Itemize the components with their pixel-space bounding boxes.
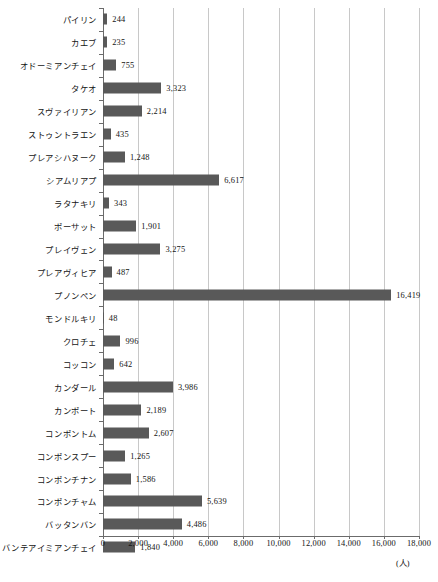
bar-value-label: 1,586 — [131, 474, 156, 483]
bar-row: オドーミアンチェイ755 — [0, 54, 438, 77]
bar-value-label: 3,986 — [173, 382, 198, 391]
bar-track: 1,265 — [103, 444, 419, 467]
bar — [103, 427, 149, 438]
category-label: コンポンチナン — [37, 473, 97, 485]
bar — [103, 60, 116, 71]
category-label: コッコン — [63, 358, 97, 370]
bar — [103, 473, 131, 484]
bar-value-label: 235 — [107, 38, 125, 47]
bar-track: 3,986 — [103, 375, 419, 398]
bar — [103, 519, 182, 530]
bar — [103, 152, 125, 163]
bar-row: ポーサット1,901 — [0, 215, 438, 238]
bar-row: プレイヴェン3,275 — [0, 238, 438, 261]
bar-track: 755 — [103, 54, 419, 77]
category-label: プレイヴェン — [45, 243, 97, 255]
bar-row: ラタナキリ343 — [0, 192, 438, 215]
unit-label: (人) — [396, 556, 410, 568]
category-label: ラタナキリ — [54, 197, 97, 209]
bar-row: タケオ3,323 — [0, 77, 438, 100]
bar-row: プノンペン16,419 — [0, 283, 438, 306]
bar-row: カエブ235 — [0, 31, 438, 54]
bar-value-label: 16,419 — [391, 290, 420, 299]
bar-track: 1,248 — [103, 146, 419, 169]
bar — [103, 244, 160, 255]
bar-value-label: 3,275 — [160, 245, 185, 254]
category-label: プレアヴィヒア — [37, 266, 97, 278]
category-label: ポーサット — [54, 220, 97, 232]
bar-row: ストゥントラエン435 — [0, 123, 438, 146]
x-axis-tick-label: 0 — [101, 539, 105, 548]
bar-track: 3,323 — [103, 77, 419, 100]
bar-value-label: 642 — [114, 359, 132, 368]
bar-value-label: 1,265 — [125, 451, 150, 460]
category-label: カエブ — [71, 36, 97, 48]
bar-value-label: 244 — [107, 15, 125, 24]
bar-value-label: 4,486 — [182, 520, 207, 529]
bar — [103, 381, 173, 392]
category-label: タケオ — [71, 82, 97, 94]
bar-row: プレアヴィヒア487 — [0, 260, 438, 283]
x-axis-tick-label: 18,000 — [407, 539, 431, 548]
bar-track: 343 — [103, 192, 419, 215]
bar — [103, 358, 114, 369]
bar — [103, 106, 142, 117]
bar-row: プレアシハヌーク1,248 — [0, 146, 438, 169]
bar — [103, 175, 219, 186]
category-label: クロチェ — [63, 335, 97, 347]
x-axis-tick-label: 6,000 — [198, 539, 218, 548]
category-label: コンポンチャム — [37, 495, 97, 507]
bar — [103, 496, 202, 507]
bar-row: パイリン244 — [0, 8, 438, 31]
category-label: カンダール — [54, 381, 97, 393]
bar — [103, 450, 125, 461]
bar — [103, 129, 111, 140]
category-label: カンポート — [54, 404, 97, 416]
category-label: ストゥントラエン — [28, 128, 97, 140]
bar-row: コンポンチナン1,586 — [0, 467, 438, 490]
bar-value-label: 3,323 — [161, 84, 186, 93]
bar — [103, 83, 161, 94]
bar-value-label: 2,214 — [142, 107, 167, 116]
bar-track: 2,189 — [103, 398, 419, 421]
bar-track: 2,214 — [103, 100, 419, 123]
x-axis-tick-label: 10,000 — [266, 539, 290, 548]
category-label: プノンペン — [54, 289, 97, 301]
bar-row: シアムリアプ6,617 — [0, 169, 438, 192]
bar-row: クロチェ996 — [0, 329, 438, 352]
bar-value-label: 2,607 — [149, 428, 174, 437]
bar-value-label: 996 — [120, 336, 138, 345]
bar-value-label: 1,248 — [125, 153, 150, 162]
bar — [103, 404, 141, 415]
category-label: プレアシハヌーク — [28, 151, 97, 163]
bar-track: 1,901 — [103, 215, 419, 238]
x-axis-tick-label: 2,000 — [128, 539, 148, 548]
bar-value-label: 755 — [116, 61, 134, 70]
bar-value-label: 435 — [111, 130, 129, 139]
bar — [103, 289, 391, 300]
category-label: バッタンバン — [45, 518, 97, 530]
x-axis-tick-label: 8,000 — [234, 539, 254, 548]
bar-track: 2,607 — [103, 421, 419, 444]
category-label: コンポンスプー — [37, 450, 97, 462]
bar-track: 235 — [103, 31, 419, 54]
x-axis-tick-label: 16,000 — [372, 539, 396, 548]
bar-track: 244 — [103, 8, 419, 31]
bar-track: 5,639 — [103, 490, 419, 513]
bar-track: 487 — [103, 260, 419, 283]
bar — [103, 335, 120, 346]
category-label: スヴァイリアン — [37, 105, 97, 117]
category-label: シアムリアプ — [46, 174, 97, 186]
bar-value-label: 1,901 — [136, 222, 161, 231]
bar-value-label: 5,639 — [202, 497, 227, 506]
bar — [103, 266, 112, 277]
bar-track: 435 — [103, 123, 419, 146]
bar-track: 48 — [103, 306, 419, 329]
bar-track: 16,419 — [103, 283, 419, 306]
category-label: パイリン — [63, 13, 97, 25]
bar-track: 996 — [103, 329, 419, 352]
bar-value-label: 2,189 — [141, 405, 166, 414]
bar-chart: パイリン244カエブ235オドーミアンチェイ755タケオ3,323スヴァイリアン… — [0, 0, 438, 582]
category-label: コンポントム — [45, 427, 97, 439]
bar-track: 1,586 — [103, 467, 419, 490]
